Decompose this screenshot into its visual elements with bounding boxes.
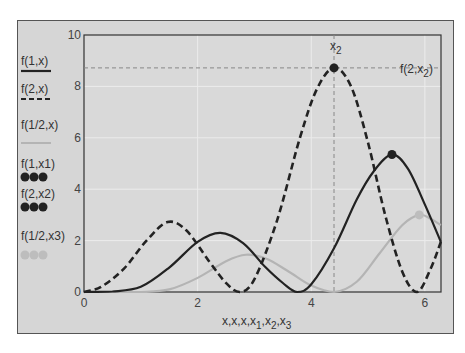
data-marker xyxy=(415,210,424,219)
legend: f(1,x) f(2,x) f(1/2,x) f(1,x1) f(2,x2) f… xyxy=(21,54,66,260)
data-marker xyxy=(387,150,396,159)
data-marker xyxy=(330,63,339,72)
y-tick-label: 0 xyxy=(74,285,81,299)
legend-dark-dots-icon xyxy=(21,173,48,182)
y-tick-label: 8 xyxy=(74,79,81,93)
x-axis-label: x,x,x,x1,x2,x3 xyxy=(222,314,292,331)
y-tick-label: 4 xyxy=(74,182,81,196)
legend-label-fhalfx3: f(1/2,x3) xyxy=(21,229,65,243)
x-tick-label: 2 xyxy=(194,296,201,310)
x-tick-label: 6 xyxy=(422,296,429,310)
y-tick-label: 10 xyxy=(68,28,82,42)
legend-label-f1x: f(1,x) xyxy=(21,54,48,68)
legend-label-fhalfx: f(1/2,x) xyxy=(21,118,58,132)
y-tick-label: 6 xyxy=(74,131,81,145)
legend-dark-dots-icon xyxy=(21,203,48,212)
legend-label-f2x2: f(2,x2) xyxy=(21,187,55,201)
legend-label-f2x: f(2,x) xyxy=(21,82,48,96)
x-tick-label: 4 xyxy=(308,296,315,310)
legend-light-dots-icon xyxy=(21,251,48,260)
x-tick-label: 0 xyxy=(81,296,88,310)
legend-label-f1x1: f(1,x1) xyxy=(21,157,55,171)
chart-svg: 02460246810 x2 f(2,x2) x,x,x,x1,x2,x3 f(… xyxy=(0,0,465,353)
y-tick-label: 2 xyxy=(74,234,81,248)
